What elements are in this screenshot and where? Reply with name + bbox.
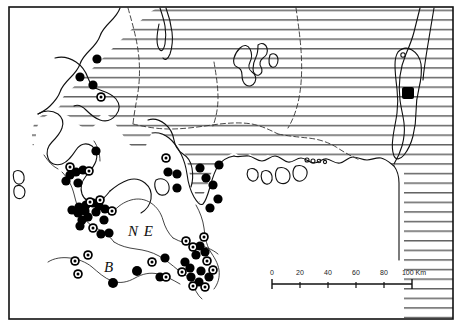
scale-tick-80: 80 [380,269,388,276]
map-canvas: N E B 0 20 40 60 80 100 Km [0,0,462,333]
scale-tick-0: 0 [270,269,274,276]
region-label-b: B [104,259,114,275]
scale-tick-40: 40 [324,269,332,276]
filled-square-marker [402,87,414,99]
scale-tick-60: 60 [352,269,360,276]
distribution-map-figure: N E B 0 20 40 60 80 100 Km [0,0,462,333]
scale-tick-20: 20 [296,269,304,276]
region-label-ne: N E [127,223,154,239]
scale-end-label: 100 Km [402,269,426,276]
